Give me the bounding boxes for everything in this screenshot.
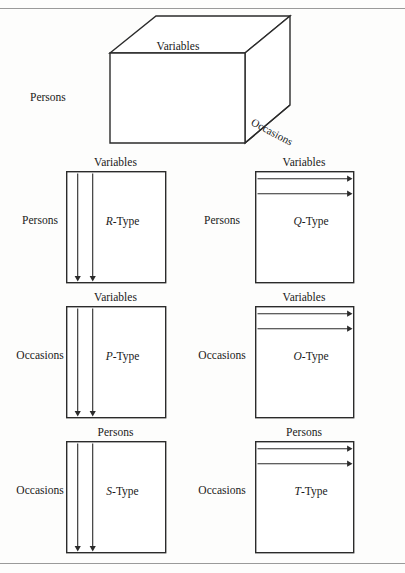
r-type-side-label: Persons [22,215,58,227]
q-type-side-label: Persons [204,215,240,227]
s-type-top-label: Persons [98,427,134,439]
t-type-suffix: -Type [301,485,328,497]
cube-side-label: Persons [30,92,66,104]
t-type-side-label: Occasions [198,485,245,497]
o-type-top-label: Variables [283,292,326,304]
p-type-suffix: -Type [113,350,140,362]
p-type-top-label: Variables [94,292,137,304]
cube-top-label: Variables [157,41,200,53]
q-type-label: Q-Type [294,216,329,228]
o-type-side-label: Occasions [198,350,245,362]
s-type-suffix: -Type [112,485,139,497]
t-type-label: T-Type [294,486,327,498]
q-type-suffix: -Type [302,215,329,227]
p-type-side-label: Occasions [16,350,63,362]
p-type-letter: P [106,350,113,362]
s-type-label: S-Type [106,486,138,498]
p-type-label: P-Type [106,351,140,363]
data-box-figure: Variables Persons Occasions VariablesPer… [0,0,405,573]
o-type-suffix: -Type [302,350,329,362]
r-type-top-label: Variables [94,157,137,169]
q-type-top-label: Variables [283,157,326,169]
s-type-side-label: Occasions [16,485,63,497]
r-type-letter: R [106,215,113,227]
o-type-label: O-Type [294,351,329,363]
t-type-top-label: Persons [286,427,322,439]
r-type-suffix: -Type [113,215,140,227]
r-type-label: R-Type [106,216,140,228]
